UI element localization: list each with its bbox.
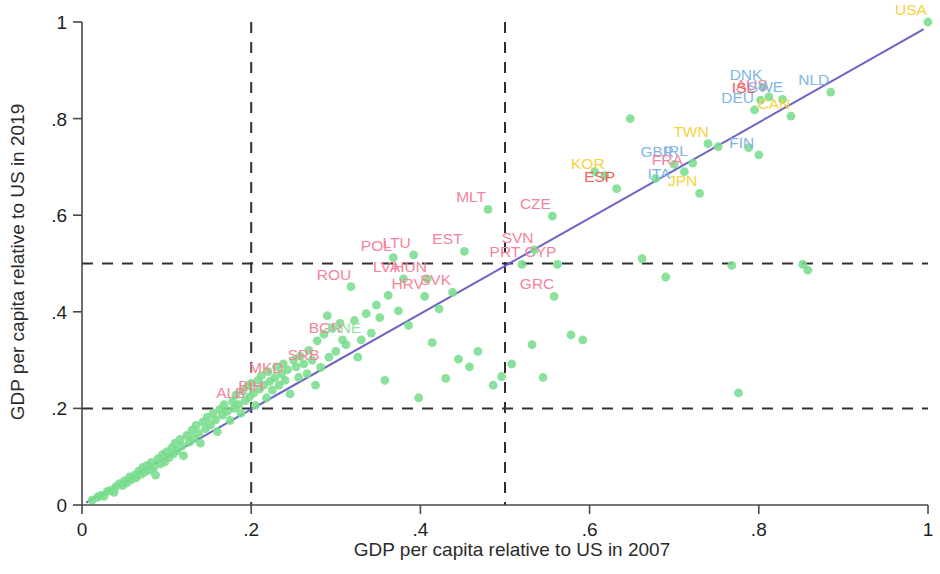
data-point [342, 340, 351, 349]
data-point [380, 376, 389, 385]
data-points-group [88, 18, 933, 505]
country-labels-group: USANLDDNKAUSISLSWEDEUCANFINTWNGBRIRLFRAI… [216, 1, 927, 401]
y-tick-label: 1 [56, 12, 67, 33]
data-point [497, 372, 506, 381]
data-point [414, 393, 423, 402]
data-point [196, 439, 205, 448]
data-point [441, 374, 450, 383]
data-point [357, 335, 366, 344]
data-point [394, 306, 403, 315]
data-point [294, 373, 303, 382]
data-point [362, 309, 371, 318]
data-point [474, 347, 483, 356]
data-point [347, 282, 356, 291]
data-point [331, 347, 340, 356]
data-point [754, 150, 763, 159]
data-point [539, 373, 548, 382]
data-point [548, 212, 557, 221]
data-point [803, 266, 812, 275]
data-point [404, 321, 413, 330]
country-label-jpn: JPN [668, 172, 697, 189]
y-tick-label: .6 [51, 205, 67, 226]
data-point [286, 390, 295, 399]
x-tick-label: .2 [243, 519, 259, 540]
data-point [567, 331, 576, 340]
data-point [420, 292, 429, 301]
y-tick-label: .2 [51, 398, 67, 419]
country-label-svk: SVK [420, 271, 452, 288]
data-point [626, 114, 635, 123]
data-point [179, 451, 188, 460]
data-point [435, 305, 444, 314]
x-tick-label: .4 [412, 519, 428, 540]
data-point [734, 389, 743, 398]
data-point [292, 362, 301, 371]
data-point [688, 159, 697, 168]
x-tick-label: 0 [77, 519, 88, 540]
data-point [507, 360, 516, 369]
data-point [367, 329, 376, 338]
data-point [661, 273, 670, 282]
y-axis-title: GDP per capita relative to US in 2019 [7, 104, 28, 421]
data-point [375, 313, 384, 322]
tick-labels-group: 0.2.4.6.810.2.4.6.81 [51, 12, 933, 540]
scatter-plot-figure: USANLDDNKAUSISLSWEDEUCANFINTWNGBRIRLFRAI… [0, 0, 940, 574]
data-point [251, 401, 260, 410]
data-point [714, 142, 723, 151]
data-point [612, 184, 621, 193]
data-point [177, 442, 186, 451]
country-label-cyp: CYP [525, 243, 557, 260]
data-point [448, 288, 457, 297]
data-point [528, 340, 537, 349]
data-point [303, 369, 312, 378]
data-point [484, 205, 493, 214]
country-label-deu: DEU [721, 89, 754, 106]
x-tick-label: 1 [923, 519, 934, 540]
country-label-esp: ESP [584, 168, 615, 185]
y-tick-label: 0 [56, 495, 67, 516]
data-point [924, 18, 933, 27]
data-point [311, 381, 320, 390]
data-point [695, 189, 704, 198]
country-label-grc: GRC [520, 275, 554, 292]
country-label-alb: ALB [216, 384, 245, 401]
x-axis-title: GDP per capita relative to US in 2007 [354, 539, 671, 560]
x-tick-label: .6 [582, 519, 598, 540]
country-label-est: EST [432, 230, 463, 247]
country-label-nld: NLD [798, 71, 829, 88]
y-tick-label: .8 [51, 109, 67, 130]
country-label-prt: PRT [490, 243, 521, 260]
data-point [489, 381, 498, 390]
data-point [578, 335, 587, 344]
data-point [151, 471, 160, 480]
country-label-ltu: LTU [383, 234, 411, 251]
data-point [372, 301, 381, 310]
country-label-twn: TWN [673, 123, 708, 140]
data-point [454, 355, 463, 364]
country-label-rou: ROU [317, 266, 351, 283]
data-point [826, 88, 835, 97]
data-point [553, 260, 562, 269]
y-tick-label: .4 [51, 302, 67, 323]
country-label-mlt: MLT [456, 188, 486, 205]
country-label-mkd: MKD [249, 359, 283, 376]
country-label-can: CAN [758, 95, 791, 112]
data-point [213, 427, 222, 436]
data-point [787, 112, 796, 121]
data-point [353, 353, 362, 362]
data-point [704, 139, 713, 148]
data-point [313, 336, 322, 345]
country-label-hrv: HRV [391, 275, 424, 292]
data-point [465, 362, 474, 371]
data-point [262, 393, 271, 402]
country-label-mne: MNE [327, 319, 361, 336]
data-point [281, 376, 290, 385]
data-point [727, 261, 736, 270]
country-label-usa: USA [895, 1, 928, 18]
data-point [638, 254, 647, 263]
plot-canvas: USANLDDNKAUSISLSWEDEUCANFINTWNGBRIRLFRAI… [0, 0, 940, 574]
country-label-srb: SRB [288, 346, 320, 363]
data-point [518, 260, 527, 269]
data-point [428, 338, 437, 347]
country-label-cze: CZE [520, 195, 551, 212]
